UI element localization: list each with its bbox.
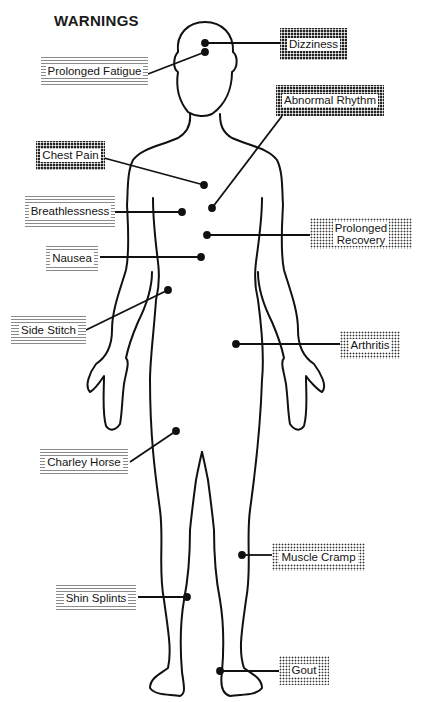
crotch-outline (202, 452, 208, 480)
label-shin-splints: Shin Splints (56, 585, 136, 611)
label-prolonged-recovery-text: Prolonged Recovery (333, 222, 389, 246)
label-prolonged-recovery-line2: Recovery (337, 234, 386, 246)
label-arthritis: Arthritis (340, 331, 400, 359)
warnings-diagram: WARNINGS (0, 0, 424, 702)
marker-dot-abnormal-rhythm (209, 205, 215, 211)
label-dizziness: Dizziness (280, 28, 347, 60)
label-breathlessness: Breathlessness (25, 196, 115, 227)
marker-dot-dizziness (202, 40, 208, 46)
label-breathlessness-text: Breathlessness (29, 205, 112, 218)
label-chest-pain: Chest Pain (36, 141, 105, 170)
marker-dot-breathlessness (179, 209, 185, 215)
label-dizziness-text: Dizziness (287, 38, 340, 51)
body-right-outline (220, 114, 324, 430)
marker-dot-prolonged-recovery (204, 232, 210, 238)
label-abnormal-rhythm: Abnormal Rhythm (276, 85, 384, 116)
label-prolonged-fatigue: Prolonged Fatigue (41, 57, 148, 85)
label-charley-horse: Charley Horse (40, 449, 128, 476)
leader-line-chest-pain (104, 158, 204, 185)
label-nausea: Nausea (46, 246, 98, 271)
label-prolonged-recovery-line1: Prolonged (335, 222, 387, 234)
marker-dot-gout (217, 668, 223, 674)
label-prolonged-fatigue-text: Prolonged Fatigue (46, 65, 144, 78)
torso-left-outline (150, 198, 202, 696)
label-shin-splints-text: Shin Splints (64, 592, 129, 605)
torso-right-outline (208, 198, 263, 696)
marker-dot-chest-pain (201, 182, 207, 188)
marker-dot-shin-splints (184, 594, 190, 600)
label-charley-horse-text: Charley Horse (45, 456, 123, 469)
marker-dot-arthritis (233, 341, 239, 347)
label-side-stitch-text: Side Stitch (19, 324, 78, 337)
label-side-stitch: Side Stitch (11, 316, 86, 344)
marker-dot-nausea (198, 254, 204, 260)
label-gout: Gout (279, 656, 329, 685)
label-prolonged-recovery: Prolonged Recovery (310, 218, 412, 249)
label-muscle-cramp-text: Muscle Cramp (279, 551, 357, 564)
label-gout-text: Gout (290, 664, 319, 677)
label-arthritis-text: Arthritis (349, 339, 392, 352)
marker-dot-muscle-cramp (239, 552, 245, 558)
label-nausea-text: Nausea (50, 252, 94, 265)
label-abnormal-rhythm-text: Abnormal Rhythm (282, 94, 378, 107)
head-outline (174, 22, 236, 116)
marker-dot-prolonged-fatigue (202, 49, 208, 55)
marker-dot-charley-horse (173, 428, 179, 434)
marker-dot-side-stitch (165, 287, 171, 293)
label-chest-pain-text: Chest Pain (40, 149, 100, 162)
label-muscle-cramp: Muscle Cramp (272, 543, 365, 571)
